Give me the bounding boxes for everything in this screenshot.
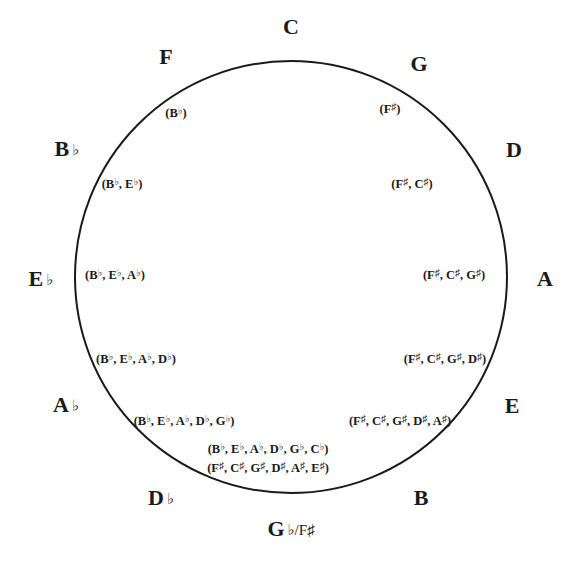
sharp-icon: ♯ — [281, 460, 286, 471]
sharp-icon: ♯ — [391, 101, 396, 112]
key-signature-bb: (B♭, E♭) — [102, 177, 143, 191]
sharp-icon: ♯ — [402, 413, 407, 424]
flat-icon: ♭ — [147, 351, 152, 362]
sharp-icon: ♯ — [477, 351, 482, 362]
accidental-icon: ♭ — [72, 398, 79, 414]
flat-icon: ♭ — [114, 176, 119, 187]
sharp-icon: ♯ — [416, 351, 421, 362]
key-signature-a: (F♯, C♯, G♯) — [423, 268, 485, 282]
key-signature-db: (B♭, E♭, A♭, D♭, G♭) — [134, 414, 235, 428]
flat-icon: ♭ — [220, 441, 225, 452]
key-label-c: C — [283, 16, 299, 38]
key-signature-eb: (B♭, E♭, A♭) — [85, 268, 145, 282]
key-letter: G — [410, 51, 427, 76]
flat-icon: ♭ — [185, 413, 190, 424]
circle-outline — [0, 0, 576, 566]
flat-icon: ♭ — [136, 267, 141, 278]
sharp-icon: ♯ — [423, 176, 428, 187]
sharp-icon: ♯ — [435, 267, 440, 278]
flat-icon: ♭ — [97, 267, 102, 278]
key-label-f: F — [159, 46, 172, 68]
key-letter: A — [53, 392, 69, 417]
key-signature-ab: (B♭, E♭, A♭, D♭) — [96, 352, 176, 366]
circle-of-fifths-diagram: CGDAEBG♭/F♯D♭A♭E♭B♭F (F♯)(F♯, C♯)(F♯, C♯… — [0, 0, 576, 566]
accidental-icon: ♭ — [72, 142, 79, 158]
key-letter: B — [414, 485, 429, 510]
key-letter: F — [159, 44, 172, 69]
flat-icon: ♭ — [279, 441, 284, 452]
flat-icon: ♭ — [146, 413, 151, 424]
key-label-gb-f#: G♭/F♯ — [267, 518, 314, 540]
key-signature-f: (B♭) — [165, 106, 186, 120]
key-label-a: A — [537, 268, 553, 290]
flat-icon: ♭ — [239, 441, 244, 452]
sharp-icon: ♯ — [436, 351, 441, 362]
sharp-icon: ♯ — [422, 413, 427, 424]
sharp-icon: ♯ — [300, 460, 305, 471]
sharp-icon: ♯ — [457, 351, 462, 362]
key-signature-fsharp: (F♯, C♯, G♯, D♯, A♯, E♯) — [207, 461, 329, 475]
key-label-g: G — [410, 53, 427, 75]
key-label-db: D♭ — [148, 487, 174, 509]
key-letter: B — [55, 136, 70, 161]
flat-icon: ♭ — [167, 351, 172, 362]
key-label-b: B — [414, 487, 429, 509]
flat-icon: ♭ — [108, 351, 113, 362]
key-signature-d: (F♯, C♯) — [391, 177, 432, 191]
key-letter: C — [283, 14, 299, 39]
flat-icon: ♭ — [133, 176, 138, 187]
sharp-icon: ♯ — [239, 460, 244, 471]
sharp-icon: ♯ — [361, 413, 366, 424]
flat-icon: ♭ — [205, 413, 210, 424]
flat-icon: ♭ — [178, 105, 183, 116]
key-label-e: E — [505, 395, 520, 417]
sharp-icon: ♯ — [403, 176, 408, 187]
accidental-icon: ♭/F♯ — [288, 522, 315, 538]
sharp-icon: ♯ — [320, 460, 325, 471]
flat-icon: ♭ — [319, 441, 324, 452]
key-letter: A — [537, 266, 553, 291]
flat-icon: ♭ — [165, 413, 170, 424]
key-signature-gb: (B♭, E♭, A♭, D♭, G♭, C♭) — [208, 442, 329, 456]
key-letter: E — [29, 266, 44, 291]
flat-icon: ♭ — [117, 267, 122, 278]
accidental-icon: ♭ — [167, 491, 174, 507]
sharp-icon: ♯ — [381, 413, 386, 424]
key-letter: E — [505, 393, 520, 418]
sharp-icon: ♯ — [219, 460, 224, 471]
sharp-icon: ♯ — [442, 413, 447, 424]
key-label-eb: E♭ — [29, 268, 54, 290]
sharp-icon: ♯ — [260, 460, 265, 471]
key-label-d: D — [506, 139, 522, 161]
key-letter: D — [506, 137, 522, 162]
flat-icon: ♭ — [259, 441, 264, 452]
key-label-ab: A♭ — [53, 394, 79, 416]
key-signature-e: (F♯, C♯, G♯, D♯) — [404, 352, 487, 366]
key-label-bb: B♭ — [55, 138, 80, 160]
key-letter: D — [148, 485, 164, 510]
sharp-icon: ♯ — [455, 267, 460, 278]
key-signature-b: (F♯, C♯, G♯, D♯, A♯) — [349, 414, 451, 428]
accidental-icon: ♭ — [46, 272, 53, 288]
flat-icon: ♭ — [299, 441, 304, 452]
flat-icon: ♭ — [128, 351, 133, 362]
flat-icon: ♭ — [225, 413, 230, 424]
sharp-icon: ♯ — [476, 267, 481, 278]
key-signature-g: (F♯) — [380, 102, 401, 116]
key-letter: G — [267, 516, 284, 541]
